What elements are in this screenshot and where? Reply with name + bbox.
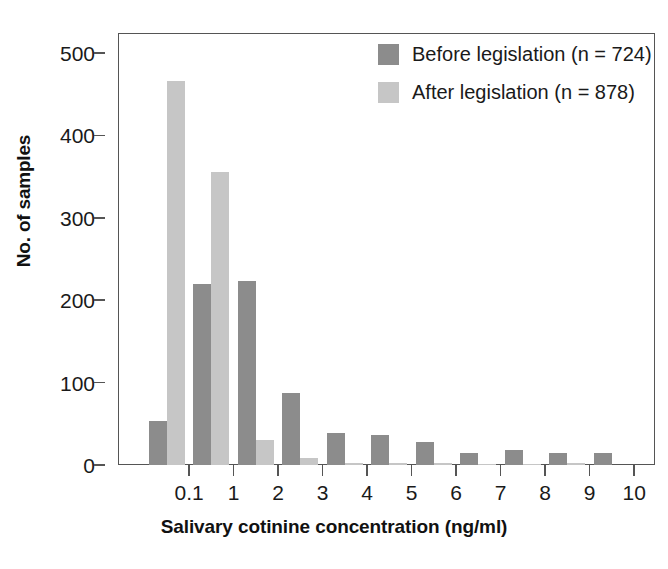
y-axis-title: No. of samples bbox=[13, 81, 35, 321]
x-axis-tick-label: 3 bbox=[317, 481, 329, 505]
x-axis-tick-mark bbox=[633, 465, 635, 476]
bar bbox=[282, 393, 300, 465]
x-axis-tick-mark bbox=[277, 465, 279, 476]
bar bbox=[371, 435, 389, 465]
legend-swatch bbox=[378, 82, 399, 103]
y-axis: No. of samples 0100200300400500 bbox=[0, 0, 118, 569]
y-axis-tick-mark bbox=[94, 135, 105, 137]
legend-label: Before legislation (n = 724) bbox=[412, 43, 652, 65]
legend-label: After legislation (n = 878) bbox=[412, 81, 635, 103]
legend-item: After legislation (n = 878) bbox=[378, 80, 652, 104]
bar bbox=[416, 442, 434, 465]
y-axis-tick-label: 300 bbox=[60, 207, 95, 228]
x-axis-tick-label: 7 bbox=[495, 481, 507, 505]
x-axis-tick-label: 5 bbox=[406, 481, 418, 505]
x-axis-title: Salivary cotinine concentration (ng/ml) bbox=[0, 516, 668, 538]
y-axis-tick-mark bbox=[94, 217, 105, 219]
bar bbox=[149, 421, 167, 465]
x-axis-tick-label: 6 bbox=[450, 481, 462, 505]
bar bbox=[389, 463, 407, 465]
x-axis-tick-mark bbox=[366, 465, 368, 476]
bar bbox=[460, 453, 478, 465]
x-axis-tick-mark bbox=[500, 465, 502, 476]
bar bbox=[193, 284, 211, 465]
x-axis-tick-label: 0.1 bbox=[175, 481, 204, 505]
y-axis-tick-mark bbox=[94, 464, 105, 466]
bar bbox=[523, 464, 541, 465]
y-axis-tick-label: 500 bbox=[60, 43, 95, 64]
bar bbox=[300, 458, 318, 465]
x-axis-tick-label: 10 bbox=[623, 481, 646, 505]
x-axis-tick-label: 8 bbox=[539, 481, 551, 505]
y-axis-tick-mark bbox=[94, 299, 105, 301]
bar bbox=[505, 450, 523, 465]
bar bbox=[211, 172, 229, 465]
legend-item: Before legislation (n = 724) bbox=[378, 42, 652, 66]
chart-root: No. of samples 0100200300400500 0.112345… bbox=[0, 0, 668, 569]
x-axis-tick-mark bbox=[322, 465, 324, 476]
y-axis-tick-label: 200 bbox=[60, 290, 95, 311]
y-axis-tick-mark bbox=[94, 382, 105, 384]
bar bbox=[549, 453, 567, 465]
legend-swatch bbox=[378, 44, 399, 65]
y-axis-tick-label: 400 bbox=[60, 125, 95, 146]
bar bbox=[327, 433, 345, 465]
bar bbox=[434, 463, 452, 465]
x-axis-tick-mark bbox=[233, 465, 235, 476]
x-axis-tick-label: 4 bbox=[361, 481, 373, 505]
x-axis-tick-mark bbox=[455, 465, 457, 476]
bar bbox=[167, 81, 185, 465]
bar bbox=[567, 463, 585, 465]
chart-legend: Before legislation (n = 724)After legisl… bbox=[378, 42, 652, 118]
x-axis-tick-mark bbox=[589, 465, 591, 476]
y-axis-tick-mark bbox=[94, 52, 105, 54]
bar bbox=[594, 453, 612, 465]
x-axis-tick-mark bbox=[188, 465, 190, 476]
y-axis-tick-label: 100 bbox=[60, 372, 95, 393]
x-axis-tick-label: 1 bbox=[228, 481, 240, 505]
x-axis-tick-label: 9 bbox=[584, 481, 596, 505]
bar bbox=[345, 463, 363, 465]
bar bbox=[478, 464, 496, 465]
x-axis-tick-label: 2 bbox=[272, 481, 284, 505]
bar bbox=[238, 281, 256, 465]
bar bbox=[256, 440, 274, 465]
x-axis-tick-mark bbox=[411, 465, 413, 476]
x-axis-tick-mark bbox=[544, 465, 546, 476]
